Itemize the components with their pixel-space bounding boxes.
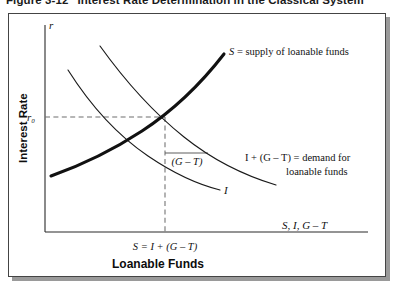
loanable-funds-chart: r S, I, G – T Interest Rate Loanable Fun… xyxy=(8,13,386,277)
investment-curve-label: I xyxy=(223,184,229,196)
supply-curve-label-text: = supply of loanable funds xyxy=(234,46,349,57)
equilibrium-quantity-label: S = I + (G – T) xyxy=(133,241,198,253)
figure-caption: Figure 3-12Interest Rate Determination i… xyxy=(0,0,395,8)
demand-curve-label-line1: I + (G – T) = demand for xyxy=(245,152,351,164)
demand-curve-label-line2: loanable funds xyxy=(286,166,348,177)
figure-title: Interest Rate Determination in the Class… xyxy=(77,0,363,6)
supply-curve-label: S = supply of loanable funds xyxy=(229,46,349,57)
figure-number: Figure 3-12 xyxy=(6,0,68,6)
y-axis-end-label: r xyxy=(49,19,54,31)
x-axis-title: Loanable Funds xyxy=(112,257,204,271)
equilibrium-rate-label: r₀ xyxy=(27,111,35,123)
gap-annotation-label: (G – T) xyxy=(172,156,203,168)
x-axis-end-label: S, I, G – T xyxy=(282,219,328,231)
y-axis-title: Interest Rate xyxy=(17,93,29,163)
